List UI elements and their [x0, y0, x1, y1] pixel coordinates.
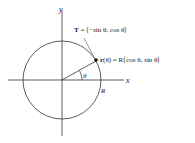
circle-diagram: y x T = ⟨−sin θ, cos θ⟩ r(θ) = R⟨cos θ, … [0, 0, 195, 143]
radius-vector [62, 61, 96, 80]
radius-label: R [100, 87, 106, 95]
y-axis-label: y [58, 5, 63, 14]
point-on-circle [94, 58, 98, 62]
angle-arc [80, 71, 83, 81]
angle-label: θ [83, 72, 87, 80]
tangent-label: T = ⟨−sin θ, cos θ⟩ [74, 26, 127, 34]
position-label: r(θ) = R⟨cos θ, sin θ⟩ [100, 56, 160, 64]
x-axis-label: x [125, 76, 130, 85]
